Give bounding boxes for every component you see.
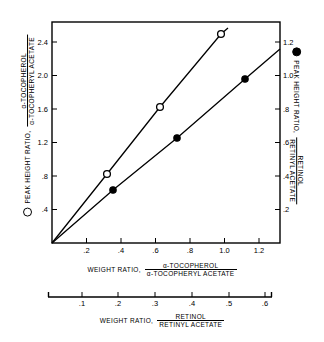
y-left-axis-label: PEAK HEIGHT RATIO, α-TOCOPHEROL α-TOCOPH… [0,118,148,134]
x-secondary-tick-label: .6 [262,299,268,308]
y-left-axis-denominator: α-TOCOPHERYL ACETATE [29,35,36,127]
x-primary-axis-label-prefix: WEIGHT RATIO, [87,266,140,273]
x-primary-axis-numerator: α-TOCOPHEROL [145,262,237,270]
y-left-axis-label-prefix: PEAK HEIGHT RATIO, [25,131,32,204]
x-primary-axis-label: WEIGHT RATIO, α-TOCOPHEROL α-TOCOPHERYL … [0,262,324,278]
x-primary-tick-label: 1.0 [219,246,229,255]
x-primary-tick-labels: .2 .4 .6 .8 1.0 1.2 [83,246,264,255]
x-secondary-tick-label: .3 [152,299,158,308]
data-point-filled-circle [242,76,248,82]
y-left-axis-label-inner: PEAK HEIGHT RATIO, α-TOCOPHEROL α-TOCOPH… [20,35,36,217]
x-primary-tick-label: 1.2 [254,246,264,255]
series-tocopherol-line [52,28,228,243]
x-primary-axis-label-fraction: α-TOCOPHEROL α-TOCOPHERYL ACETATE [145,262,237,278]
data-point-open-circle [157,104,164,111]
data-point-filled-circle [110,187,116,193]
y-right-axis-label-fraction: RETINOL RETINYL ACETATE [288,137,304,204]
x-secondary-tick-label: .5 [226,299,232,308]
x-secondary-axis-label-prefix: WEIGHT RATIO, [100,317,153,324]
x-secondary-tick-labels: .1 .2 .3 .4 .5 .6 [79,299,268,308]
x-secondary-tick-label: .4 [189,299,195,308]
series-retinol [52,49,280,243]
y-right-axis-denominator: RETINYL ACETATE [288,137,295,204]
y-left-axis-numerator: α-TOCOPHEROL [20,35,28,127]
y-right-tick-label: 1.2 [283,38,293,47]
x-primary-tick-label: .2 [83,246,89,255]
y-right-axis-label: PEAK HEIGHT RATIO, RETINOL RETINYL ACETA… [176,118,324,134]
x-secondary-axis-numerator: RETINOL [157,313,224,321]
chart-figure: .4 .8 1.2 1.6 2.0 2.4 .2 .4 .6 .8 1.0 1.… [0,0,324,342]
x-primary-tick-label: .6 [152,246,158,255]
x-primary-tick-label: .4 [118,246,124,255]
y-left-tick-label: 1.2 [38,138,48,147]
series-tocopherol [52,28,228,243]
x-primary-tick-label: .8 [187,246,193,255]
y-left-tick-label: .8 [42,172,48,181]
x-secondary-tick-label: .2 [115,299,121,308]
x-secondary-axis-label-fraction: RETINOL RETINYL ACETATE [157,313,224,329]
y-left-tick-label: 2.4 [38,38,48,47]
y-left-axis-label-fraction: α-TOCOPHEROL α-TOCOPHERYL ACETATE [20,35,36,127]
y-right-axis-label-inner: PEAK HEIGHT RATIO, RETINOL RETINYL ACETA… [288,48,304,205]
filled-circle-marker [292,48,301,57]
chart-plot-area: .4 .8 1.2 1.6 2.0 2.4 .2 .4 .6 .8 1.0 1.… [0,0,324,342]
data-point-open-circle [218,31,225,38]
y-right-tick-label: .2 [283,205,289,214]
y-left-tick-label: 1.6 [38,105,48,114]
y-right-axis-numerator: RETINOL [296,137,304,204]
x-secondary-tick-label: .1 [79,299,85,308]
x-primary-axis-denominator: α-TOCOPHERYL ACETATE [145,270,237,277]
x-secondary-axis-denominator: RETINYL ACETATE [157,321,224,328]
y-right-axis-label-prefix: PEAK HEIGHT RATIO, [293,61,300,134]
y-left-tick-label: 2.0 [38,71,48,80]
data-point-filled-circle [174,135,180,141]
x-secondary-ticks [82,292,265,297]
open-circle-marker [24,208,33,217]
x-secondary-axis-label: WEIGHT RATIO, RETINOL RETINYL ACETATE [0,313,324,329]
data-point-open-circle [104,171,111,178]
y-left-tick-label: .4 [42,205,48,214]
x-primary-ticks [87,238,260,243]
